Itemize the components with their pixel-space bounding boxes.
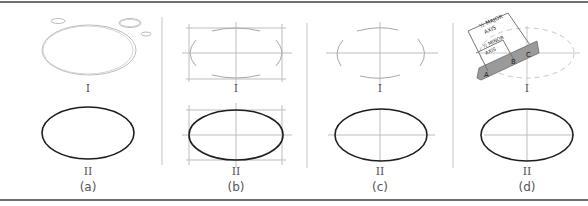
point-a: A [484,71,489,79]
panel-c-caption: (c) [360,180,400,194]
panel-c-final [328,108,435,162]
panel-b-sketch [182,22,292,85]
panel-d-bottom-label: II [507,165,547,178]
panel-c-top-label: I [360,82,400,95]
panel-b-bottom-label: II [216,165,256,178]
panel-a-sketch [42,19,151,76]
panel-c-sketch [326,22,438,86]
panel-a-top-label: I [68,82,108,95]
point-c: C [526,51,531,59]
panel-a-caption: (a) [68,180,108,194]
point-b: B [511,58,516,66]
panel-d-top-label: I [507,82,547,95]
panel-d-final [481,109,573,162]
panel-a-final-ellipse [42,107,134,159]
panel-c-bottom-label: II [360,165,400,178]
panel-b-caption: (b) [216,180,256,194]
panel-a-bottom-label: II [68,165,108,178]
panel-b-top-label: I [216,82,256,95]
panel-b-final [182,103,292,167]
panel-d-caption: (d) [507,180,547,194]
